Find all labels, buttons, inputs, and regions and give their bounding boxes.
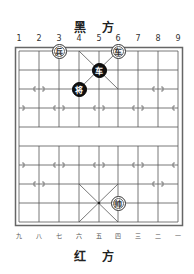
palace-center-dot — [98, 202, 101, 205]
file-label: 五 — [92, 231, 106, 240]
red-general-piece[interactable]: 帅 — [111, 196, 126, 211]
file-label: 二 — [151, 231, 165, 240]
red-soldier-piece[interactable]: 兵 — [52, 44, 67, 59]
file-label: 三 — [131, 231, 145, 240]
file-label: 九 — [12, 231, 26, 240]
file-label: 六 — [72, 231, 86, 240]
red-side-label: 红 方 — [0, 247, 194, 264]
file-label: 八 — [32, 231, 46, 240]
file-label: 四 — [111, 231, 125, 240]
position-markers — [23, 86, 174, 187]
black-chariot-piece[interactable]: 车 — [92, 63, 107, 78]
file-label: 七 — [52, 231, 66, 240]
black-general-piece[interactable]: 将 — [72, 82, 87, 97]
red-chariot-piece[interactable]: 车 — [111, 44, 126, 59]
bottom-file-labels: 九 八 七 六 五 四 三 二 一 — [0, 231, 194, 243]
file-label: 一 — [171, 231, 185, 240]
